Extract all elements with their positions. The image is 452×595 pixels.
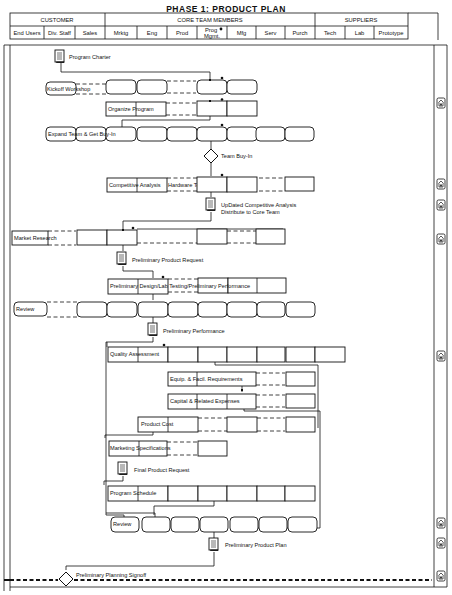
capital-expenses-row[interactable]: Capital & Related Expenses — [168, 394, 320, 528]
template-icon[interactable] — [437, 518, 445, 528]
team-buyin-decision[interactable]: Team Buy-In — [204, 149, 252, 176]
prelim-planning-signoff-label: Preliminary Planning Signoff — [76, 572, 147, 578]
kickoff-workshop-label: Kickoff Workshop — [47, 86, 90, 92]
col-prototype: Prototype — [379, 30, 404, 36]
competitive-analysis-row[interactable]: Competitive Analysis Hardware Teardown — [107, 174, 314, 192]
prelim-product-request-label: Preliminary Product Request — [132, 257, 204, 263]
expand-team-row[interactable]: Expand Team & Get Buy-In — [46, 124, 314, 149]
prelim-product-plan-doc[interactable]: Preliminary Product Plan — [66, 538, 287, 570]
program-charter-doc[interactable]: Program Charter — [55, 50, 210, 80]
col-prod: Prod — [176, 30, 188, 36]
col-mrktg: Mrktg — [114, 30, 129, 36]
group-core-team: CORE TEAM MEMBERS — [177, 17, 242, 23]
group-suppliers: SUPPLIERS — [345, 17, 378, 23]
competitive-analysis-label: Competitive Analysis — [109, 182, 161, 188]
template-icon[interactable] — [437, 200, 445, 210]
equip-facil-row[interactable]: Equip. & Facil. Requirements — [168, 372, 315, 392]
organize-program-label: Organize Program — [108, 106, 154, 112]
team-buyin-label: Team Buy-In — [221, 153, 252, 159]
final-product-request-label: Final Product Request — [134, 467, 190, 473]
review-2-label: Review — [113, 521, 132, 527]
updated-comp-label-2: Distribute to Core Team — [221, 209, 280, 215]
template-icon[interactable] — [437, 538, 445, 548]
review-row-2[interactable]: Review — [111, 517, 317, 538]
marketing-specs-label: Marketing Specifications — [110, 445, 171, 451]
capital-expenses-label: Capital & Related Expenses — [170, 398, 240, 404]
organize-program-row[interactable]: Organize Program — [106, 98, 257, 127]
prelim-product-request-doc[interactable]: Preliminary Product Request — [117, 245, 204, 278]
quality-assessment-label: Quality Assessment — [110, 351, 160, 357]
prelim-performance-label: Preliminary Performance — [163, 328, 225, 334]
review-1-label: Review — [16, 306, 35, 312]
col-purch: Purch — [292, 30, 307, 36]
marketing-specs-row[interactable]: Marketing Specifications — [109, 441, 227, 456]
col-tech: Tech — [324, 30, 336, 36]
template-icon[interactable] — [437, 179, 445, 189]
equip-facil-label: Equip. & Facil. Requirements — [170, 376, 243, 382]
prelim-design-label: Preliminary Design/Lab Testing/Prelimina… — [110, 283, 250, 289]
kickoff-workshop-row[interactable]: Kickoff Workshop — [46, 77, 257, 95]
updated-comp-label-1: UpDated Competitive Analysis — [221, 202, 296, 208]
expand-team-label: Expand Team & Get Buy-In — [48, 131, 116, 137]
market-research-label: Market Research — [14, 235, 57, 241]
side-icons-column — [437, 98, 445, 581]
template-icon[interactable] — [437, 234, 445, 244]
prelim-design-row[interactable]: Preliminary Design/Lab Testing/Prelimina… — [108, 276, 286, 300]
prelim-planning-signoff[interactable]: Preliminary Planning Signoff — [4, 572, 432, 586]
col-div-staff: Div. Staff — [48, 30, 71, 36]
col-mfg: Mfg — [237, 30, 247, 36]
col-eng: Eng — [147, 30, 157, 36]
col-serv: Serv — [265, 30, 277, 36]
prelim-performance-doc[interactable]: Preliminary Performance — [107, 323, 225, 347]
product-cost-row[interactable]: Product Cost — [105, 417, 315, 438]
program-charter-label: Program Charter — [69, 54, 111, 60]
group-customer: CUSTOMER — [40, 17, 73, 23]
final-product-request-doc[interactable]: Final Product Request — [104, 462, 190, 485]
col-prog-mgmt-2: Mgmt. — [204, 33, 220, 39]
updated-competitive-analysis-doc[interactable]: UpDated Competitive Analysis Distribute … — [123, 192, 296, 229]
col-lab: Lab — [355, 30, 365, 36]
template-icon[interactable] — [437, 571, 445, 581]
col-end-users: End Users — [13, 30, 40, 36]
col-sales: Sales — [83, 30, 98, 36]
program-schedule-label: Program Schedule — [110, 490, 156, 496]
template-icon[interactable] — [437, 351, 445, 361]
template-icon[interactable] — [437, 98, 445, 108]
review-row-1[interactable]: Review — [14, 302, 315, 323]
col-prog-mgmt: Prog — [205, 27, 217, 33]
swimlane-header: CUSTOMER CORE TEAM MEMBERS SUPPLIERS End… — [10, 13, 438, 40]
market-research-row[interactable]: Market Research — [12, 227, 285, 245]
product-cost-label: Product Cost — [141, 421, 174, 427]
prelim-product-plan-label: Preliminary Product Plan — [225, 542, 287, 548]
